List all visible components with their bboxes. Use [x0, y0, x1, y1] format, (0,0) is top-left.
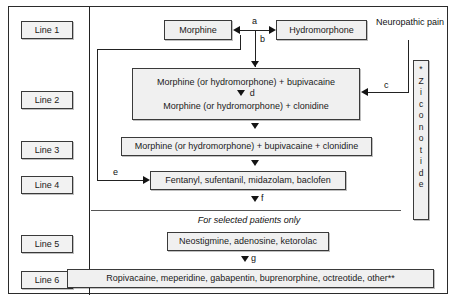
node-line5-text: Neostigmine, adenosine, ketorolac — [179, 236, 317, 247]
node-line3: Morphine (or hydromorphone) + bupivacain… — [121, 137, 372, 156]
edge-c-vline — [408, 40, 409, 92]
ziconotide-char-3: c — [419, 99, 423, 111]
node-hydromorphone-text: Hydromorphone — [289, 25, 354, 36]
ziconotide-char-9: d — [419, 168, 424, 180]
line-label-6-text: Line 6 — [35, 275, 60, 286]
node-line4-text: Fentanyl, sufentanil, midazolam, baclofe… — [165, 175, 331, 186]
edge-c-label: c — [384, 80, 389, 90]
edge-a-arrow-left-icon — [233, 26, 240, 34]
edge-line2-to-line3-arrow-icon — [251, 123, 259, 129]
line-label-5: Line 5 — [21, 235, 73, 253]
line-label-2: Line 2 — [21, 91, 73, 109]
line-label-5-text: Line 5 — [35, 239, 60, 250]
node-morphine-text: Morphine — [179, 25, 217, 36]
edge-e-bottom-hline — [97, 180, 147, 181]
node-line2-top-text: Morphine (or hydromorphone) + bupivacain… — [137, 77, 355, 88]
ziconotide-char-0: * — [419, 64, 422, 76]
line-label-2-text: Line 2 — [35, 95, 60, 106]
line-label-1: Line 1 — [21, 21, 73, 39]
edge-c-hline — [367, 92, 409, 93]
edge-a-arrow-right-icon — [269, 26, 276, 34]
node-neuropathic-pain: Neuropathic pain — [370, 17, 450, 28]
node-line2-inner-arrow-row: d — [137, 88, 355, 101]
node-ziconotide: *Ziconotide — [413, 60, 429, 220]
edge-f-arrow-icon — [251, 196, 259, 202]
line-label-4: Line 4 — [21, 176, 73, 194]
line-label-4-text: Line 4 — [35, 180, 60, 191]
ziconotide-char-4: o — [419, 110, 424, 122]
figure-root: Line 1 Line 2 Line 3 Line 4 Line 5 Line … — [0, 0, 456, 306]
ziconotide-char-5: n — [419, 122, 424, 134]
node-morphine: Morphine — [164, 20, 232, 40]
ziconotide-char-2: i — [420, 87, 422, 99]
ziconotide-char-7: t — [420, 145, 422, 157]
ziconotide-char-10: e — [419, 179, 424, 191]
node-neuropathic-pain-text: Neuropathic pain — [376, 17, 444, 27]
edge-d-arrow-icon — [237, 90, 245, 96]
edge-g-label: g — [251, 253, 256, 263]
selected-patients-divider — [91, 210, 401, 211]
node-line2: Morphine (or hydromorphone) + bupivacain… — [132, 68, 360, 120]
edge-e-stub-vline — [240, 35, 241, 49]
line-label-3: Line 3 — [21, 141, 73, 159]
edge-b-arrow-icon — [251, 61, 259, 67]
edge-e-vline — [97, 49, 98, 180]
line-label-3-text: Line 3 — [35, 145, 60, 156]
line-label-1-text: Line 1 — [35, 25, 60, 36]
ziconotide-char-1: Z — [418, 76, 423, 88]
node-line6-text: Ropivacaine, meperidine, gabapentin, bup… — [106, 273, 395, 284]
edge-f-label: f — [261, 193, 264, 203]
edge-g-arrow-icon — [241, 256, 249, 262]
node-hydromorphone: Hydromorphone — [276, 20, 367, 40]
node-line4: Fentanyl, sufentanil, midazolam, baclofe… — [150, 171, 346, 190]
node-line6: Ropivacaine, meperidine, gabapentin, bup… — [67, 269, 434, 288]
node-line5: Neostigmine, adenosine, ketorolac — [167, 232, 329, 251]
node-line2-bottom-text: Morphine (or hydromorphone) + clonidine — [137, 101, 355, 112]
ziconotide-char-6: o — [419, 133, 424, 145]
edge-c-arrow-icon — [361, 88, 368, 96]
edge-d-label: d — [250, 88, 255, 98]
edge-line3-to-line4-arrow-icon — [251, 160, 259, 166]
edge-e-top-hline — [97, 49, 241, 50]
edge-b-label: b — [260, 34, 265, 44]
label-column-divider — [89, 7, 90, 295]
diagram-frame: Line 1 Line 2 Line 3 Line 4 Line 5 Line … — [8, 6, 448, 294]
selected-patients-note: For selected patients only — [159, 215, 339, 226]
edge-e-arrow-icon — [143, 176, 150, 184]
ziconotide-char-8: i — [420, 156, 422, 168]
edge-e-label: e — [113, 167, 118, 177]
node-line3-text: Morphine (or hydromorphone) + bupivacain… — [135, 141, 359, 152]
line-label-6: Line 6 — [21, 271, 73, 289]
edge-a-label: a — [252, 16, 257, 26]
